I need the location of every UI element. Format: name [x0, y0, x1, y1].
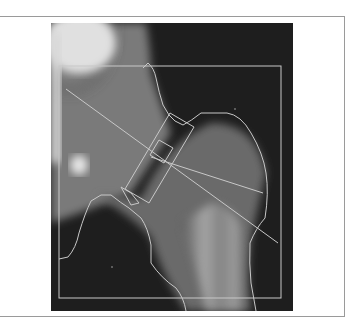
dxa-hip-scan-image: [51, 23, 293, 311]
